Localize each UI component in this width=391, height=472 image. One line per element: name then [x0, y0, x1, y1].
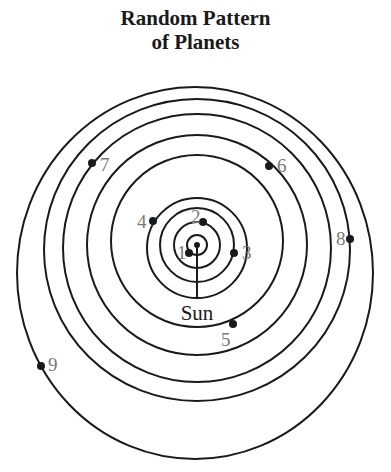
orbits [17, 87, 373, 459]
planets [37, 159, 354, 370]
planet-6-icon [265, 162, 273, 170]
solar-system-diagram: Sun 1 2 3 4 5 6 7 8 9 [0, 0, 391, 472]
planet-8-label: 8 [336, 228, 346, 249]
orbit-9 [17, 87, 373, 459]
planet-3-label: 3 [242, 242, 252, 263]
planet-8-icon [346, 235, 354, 243]
planet-9-label: 9 [48, 354, 58, 375]
planet-3-icon [230, 249, 238, 257]
planet-4-label: 4 [137, 211, 147, 232]
planet-7-icon [88, 159, 96, 167]
planet-2-label: 2 [191, 206, 201, 227]
planet-5-icon [229, 320, 237, 328]
sun-icon [194, 242, 200, 248]
planet-1-label: 1 [177, 242, 187, 263]
planet-4-icon [149, 217, 157, 225]
sun-label: Sun [181, 301, 214, 325]
planet-7-label: 7 [100, 154, 110, 175]
planet-6-label: 6 [277, 155, 287, 176]
planet-9-icon [37, 362, 45, 370]
planet-5-label: 5 [221, 329, 231, 350]
